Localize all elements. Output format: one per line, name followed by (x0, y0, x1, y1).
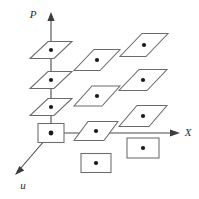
axis-x-arrowhead (170, 130, 180, 137)
cell-right-col-high (120, 34, 168, 57)
cell-p-col-mid (30, 72, 72, 89)
diagram-canvas: P X u (0, 0, 199, 199)
axis-label-u: u (20, 179, 26, 191)
cell-center-dot (94, 161, 98, 165)
cell-right-col-below (127, 138, 159, 158)
axis-label-x: X (184, 126, 193, 138)
axonometric-lattice-diagram: P X u (0, 0, 199, 199)
cell-center-dot (94, 129, 98, 133)
cell-mid-col-axis (74, 122, 118, 141)
cell-grid (30, 34, 168, 173)
axis-u-arrowhead (15, 166, 24, 175)
cell-center-dot (141, 114, 145, 118)
cell-p-col-low (30, 99, 72, 116)
cell-center-dot (95, 58, 99, 62)
cell-center-dot (141, 78, 145, 82)
cell-center-dot (49, 105, 53, 109)
cell-right-col-axis (119, 106, 167, 127)
cell-center-dot (141, 146, 145, 150)
cell-center-dot (142, 43, 146, 47)
axis-x (51, 130, 180, 137)
cell-center-dot (95, 94, 99, 98)
cell-mid-col-mid (74, 86, 120, 106)
cell-center-dot (49, 78, 53, 82)
axis-p-arrowhead (47, 12, 54, 21)
cell-center-dot (49, 48, 53, 52)
cell-mid-col-below (81, 154, 111, 173)
cell-right-col-mid (119, 70, 167, 91)
axis-label-p: P (29, 8, 37, 20)
cell-p-col-high (30, 42, 72, 59)
origin-dot (49, 131, 54, 136)
cell-mid-col-high (74, 50, 120, 71)
